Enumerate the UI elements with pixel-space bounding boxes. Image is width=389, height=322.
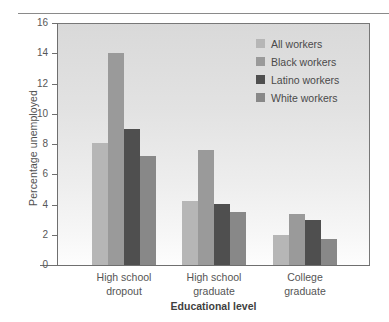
x-axis-line bbox=[40, 265, 370, 266]
legend-item: Black workers bbox=[256, 53, 368, 70]
y-tick-mark bbox=[52, 114, 57, 115]
bar bbox=[273, 235, 289, 265]
y-tick-mark bbox=[52, 174, 57, 175]
bar bbox=[140, 156, 156, 265]
x-axis-title: Educational level bbox=[57, 300, 370, 312]
bar bbox=[182, 201, 198, 265]
legend-color-swatch bbox=[256, 93, 265, 102]
y-tick-label: 6 bbox=[8, 169, 48, 179]
bar bbox=[92, 143, 108, 266]
legend-item: All workers bbox=[256, 35, 368, 52]
legend-item: Latino workers bbox=[256, 71, 368, 88]
y-tick-label: 14 bbox=[8, 48, 48, 58]
x-category-label: Collegegraduate bbox=[250, 271, 360, 298]
legend-label: Black workers bbox=[271, 56, 336, 68]
y-tick-mark bbox=[52, 205, 57, 206]
bar bbox=[198, 150, 214, 265]
bar bbox=[321, 239, 337, 265]
y-axis-line bbox=[57, 23, 58, 266]
chart-legend: All workersBlack workersLatino workersWh… bbox=[256, 35, 368, 107]
y-tick-label: 2 bbox=[8, 230, 48, 240]
bar-chart-figure: Percentage unemployed 0246810121416 High… bbox=[0, 0, 389, 322]
x-category-label-line: graduate bbox=[250, 285, 360, 299]
y-tick-label: 4 bbox=[8, 200, 48, 210]
bar-group bbox=[92, 23, 156, 265]
legend-color-swatch bbox=[256, 75, 265, 84]
bar bbox=[108, 53, 124, 265]
legend-label: All workers bbox=[271, 38, 322, 50]
bar bbox=[214, 204, 230, 265]
legend-color-swatch bbox=[256, 57, 265, 66]
bar bbox=[124, 129, 140, 265]
y-tick-mark bbox=[52, 144, 57, 145]
legend-label: White workers bbox=[271, 92, 338, 104]
y-tick-label: 12 bbox=[8, 79, 48, 89]
bar bbox=[230, 212, 246, 265]
y-tick-label: 16 bbox=[8, 18, 48, 28]
bar bbox=[289, 214, 305, 265]
y-tick-label: 10 bbox=[8, 109, 48, 119]
legend-item: White workers bbox=[256, 89, 368, 106]
y-tick-mark bbox=[52, 84, 57, 85]
y-tick-mark bbox=[52, 235, 57, 236]
y-tick-label: 0 bbox=[8, 260, 48, 270]
x-category-label-line: College bbox=[250, 271, 360, 285]
bar-group bbox=[182, 23, 246, 265]
legend-label: Latino workers bbox=[271, 74, 339, 86]
y-tick-mark bbox=[52, 53, 57, 54]
bar bbox=[305, 220, 321, 265]
y-tick-label: 8 bbox=[8, 139, 48, 149]
legend-color-swatch bbox=[256, 39, 265, 48]
y-tick-mark bbox=[52, 23, 57, 24]
y-tick-mark bbox=[52, 265, 57, 266]
